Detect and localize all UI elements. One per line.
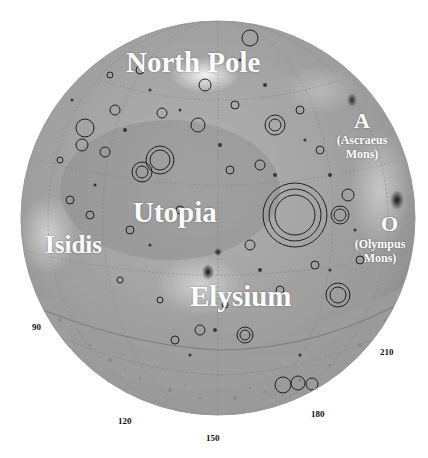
longitude-tick-120: 120 — [118, 417, 132, 426]
label-north-pole: North Pole — [126, 48, 261, 77]
longitude-tick-90: 90 — [32, 323, 41, 332]
mars-globe-figure: North Pole Utopia Isidis Elysium A (Ascr… — [0, 0, 428, 458]
label-ascraeus-name: (Ascraeus Mons) — [332, 133, 392, 161]
olympus-line2: Mons) — [350, 251, 410, 265]
longitude-tick-150: 150 — [206, 434, 220, 443]
label-ascraeus-symbol: A — [354, 110, 370, 132]
label-isidis: Isidis — [45, 232, 102, 257]
longitude-tick-180: 180 — [311, 410, 325, 419]
label-elysium: Elysium — [190, 282, 292, 311]
ascraeus-line1: (Ascraeus — [332, 133, 392, 147]
ascraeus-line2: Mons) — [332, 147, 392, 161]
longitude-tick-210: 210 — [380, 348, 394, 357]
label-utopia: Utopia — [133, 198, 217, 227]
olympus-line1: (Olympus — [350, 237, 410, 251]
label-olympus-symbol: O — [381, 213, 398, 235]
label-olympus-name: (Olympus Mons) — [350, 237, 410, 265]
